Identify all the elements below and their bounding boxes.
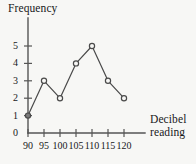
y-tick-label-3: 3	[6, 76, 18, 86]
x-tick-label-120: 120	[114, 141, 134, 151]
frequency-vs-decibel-line-chart: Frequency Decibelreading	[0, 0, 196, 164]
data-point-120	[121, 96, 126, 101]
data-point-95	[41, 78, 46, 83]
y-tick-label-4: 4	[6, 58, 18, 68]
y-tick-label-0: 0	[6, 128, 18, 138]
y-tick-label-1: 1	[6, 111, 18, 121]
y-tick-label-5: 5	[6, 41, 18, 51]
data-point-105	[73, 61, 78, 66]
data-point-110	[89, 43, 94, 48]
y-tick-label-2: 2	[6, 93, 18, 103]
data-point-100	[57, 96, 62, 101]
data-point-115	[105, 78, 110, 83]
data-point-markers	[25, 43, 126, 118]
data-point-90	[25, 113, 30, 118]
axes	[28, 18, 145, 133]
